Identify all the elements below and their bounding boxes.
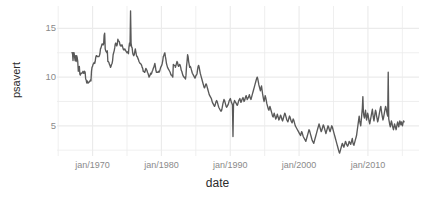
chart-container: psavert 51015 jan/1970jan/1980jan/1990ja… [0, 0, 435, 203]
y-tick-label: 15 [16, 23, 56, 33]
plot-panel [57, 6, 419, 156]
x-tick-label: jan/1980 [144, 160, 179, 170]
plot-svg [57, 6, 419, 156]
y-axis-tick-labels: 51015 [14, 0, 56, 160]
psavert-line-series [72, 11, 404, 153]
x-axis-title: date [0, 176, 435, 190]
y-tick-label: 5 [16, 121, 56, 131]
y-tick-label: 10 [16, 72, 56, 82]
x-axis-title-text: date [206, 176, 229, 190]
x-tick-label: jan/2010 [351, 160, 386, 170]
x-tick-label: jan/1970 [75, 160, 110, 170]
x-tick-label: jan/2000 [282, 160, 317, 170]
major-gridlines [57, 6, 419, 156]
x-tick-label: jan/1990 [213, 160, 248, 170]
